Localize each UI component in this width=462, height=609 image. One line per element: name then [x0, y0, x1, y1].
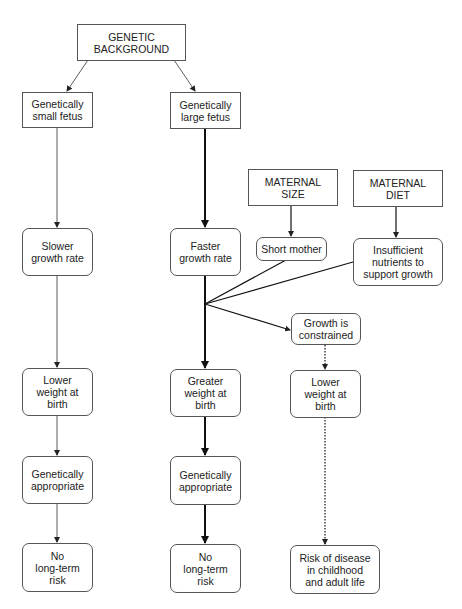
node-no-risk-center: No long-term risk [170, 544, 241, 593]
node-genetic-background: GENETIC BACKGROUND [77, 24, 186, 61]
node-maternal-size: MATERNAL SIZE [248, 169, 338, 206]
node-risk-disease: Risk of disease in childhood and adult l… [290, 545, 380, 594]
node-small-fetus: Genetically small fetus [22, 92, 93, 128]
node-greater-weight: Greater weight at birth [170, 369, 241, 417]
node-appropriate-left: Genetically appropriate [22, 456, 93, 504]
node-maternal-diet: MATERNAL DIET [353, 170, 443, 207]
node-growth-constrained: Growth is constrained [291, 313, 361, 345]
node-large-fetus: Genetically large fetus [170, 92, 241, 129]
node-lower-weight-right: Lower weight at birth [290, 370, 361, 418]
arrow-to-small-fetus [67, 60, 88, 91]
arrow-to-large-fetus [174, 60, 195, 91]
node-insufficient-nutrients: Insufficient nutrients to support growth [353, 238, 443, 286]
node-appropriate-center: Genetically appropriate [170, 456, 241, 505]
arrow-to-growth-constrained [205, 304, 290, 330]
node-lower-weight-left: Lower weight at birth [22, 368, 93, 416]
node-faster-growth: Faster growth rate [170, 228, 241, 276]
node-short-mother: Short mother [256, 237, 327, 261]
node-no-risk-left: No long-term risk [22, 543, 93, 592]
node-slower-growth: Slower growth rate [22, 228, 93, 276]
